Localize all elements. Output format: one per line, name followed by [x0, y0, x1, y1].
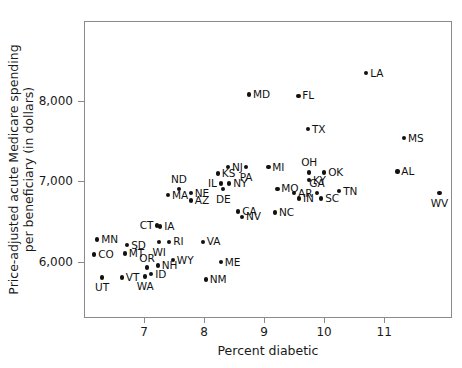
point-label: CO — [98, 249, 113, 260]
point-label: FL — [302, 90, 314, 101]
point-marker — [296, 94, 300, 98]
point-label: TN — [343, 186, 357, 197]
point-label: WY — [177, 255, 194, 266]
point-marker — [292, 191, 296, 195]
point-label: LA — [370, 68, 383, 79]
point-label: IL — [208, 178, 217, 189]
point-marker — [166, 193, 170, 197]
point-marker — [395, 169, 399, 173]
point-marker — [201, 240, 205, 244]
point-label: MI — [272, 162, 284, 173]
x-axis-tick — [204, 318, 205, 323]
point-marker — [92, 252, 96, 256]
x-axis-tick-label: 11 — [364, 325, 404, 339]
point-marker — [266, 165, 270, 169]
point-label: NY — [233, 178, 247, 189]
point-label: VT — [126, 272, 139, 283]
point-marker — [437, 191, 441, 195]
point-label: VA — [207, 236, 221, 247]
point-label: AL — [401, 166, 414, 177]
point-marker — [315, 191, 319, 195]
point-marker — [143, 274, 147, 278]
x-axis-tick — [384, 318, 385, 323]
point-label: IA — [164, 221, 174, 232]
point-marker — [216, 171, 220, 175]
y-axis-tick — [78, 181, 84, 182]
y-axis-tick — [78, 101, 84, 102]
point-label: AZ — [195, 195, 209, 206]
x-axis-title: Percent diabetic — [84, 343, 452, 358]
point-marker — [219, 260, 223, 264]
point-marker — [227, 181, 231, 185]
point-label: ME — [225, 257, 241, 268]
x-axis-tick-label: 7 — [124, 325, 164, 339]
point-marker — [402, 136, 406, 140]
point-label: ND — [171, 174, 187, 185]
point-marker — [157, 240, 161, 244]
point-marker — [100, 275, 104, 279]
point-label: OR — [139, 253, 154, 264]
point-label: WA — [137, 281, 154, 292]
point-label: CT — [140, 220, 154, 231]
point-marker — [275, 187, 279, 191]
point-label: RI — [173, 236, 183, 247]
point-marker — [319, 196, 323, 200]
point-label: NV — [246, 211, 261, 222]
x-axis-tick — [144, 318, 145, 323]
y-axis-title: Price-adjusted acute Medicare spending p… — [6, 21, 40, 318]
point-marker — [364, 71, 368, 75]
point-marker — [273, 210, 277, 214]
point-marker — [123, 251, 127, 255]
point-marker — [145, 265, 149, 269]
point-label: NC — [279, 207, 294, 218]
point-marker — [219, 181, 223, 185]
point-label: IN — [303, 193, 314, 204]
x-axis-tick — [324, 318, 325, 323]
point-label: MD — [253, 89, 270, 100]
point-label: OH — [301, 157, 317, 168]
point-label: MN — [101, 234, 118, 245]
point-marker — [204, 277, 208, 281]
point-marker — [167, 240, 171, 244]
point-label: ID — [155, 269, 166, 280]
x-axis-tick-label: 8 — [184, 325, 224, 339]
point-label: SC — [325, 193, 339, 204]
point-marker — [189, 191, 193, 195]
point-marker — [149, 272, 153, 276]
point-marker — [236, 209, 240, 213]
y-axis-title-line1: Price-adjusted acute Medicare spending — [6, 21, 21, 318]
point-label: GA — [309, 178, 324, 189]
point-label: OK — [328, 167, 343, 178]
y-axis-title-line2: per beneficiary (in dollars) — [21, 21, 36, 318]
point-label: WV — [431, 198, 448, 209]
point-marker — [156, 263, 160, 267]
x-axis-tick — [264, 318, 265, 323]
point-marker — [247, 92, 251, 96]
x-axis-tick-label: 9 — [244, 325, 284, 339]
point-label: UT — [95, 282, 109, 293]
point-marker — [221, 187, 225, 191]
point-marker — [240, 215, 244, 219]
point-marker — [306, 127, 310, 131]
point-marker — [297, 196, 301, 200]
point-marker — [244, 165, 248, 169]
point-label: MA — [172, 190, 188, 201]
point-marker — [307, 170, 311, 174]
data-points-layer: LAMDFLTXMSALWVNJPAMIOHOKKSKYNYILDEMONDTN… — [84, 21, 452, 318]
y-axis-tick — [78, 262, 84, 263]
point-marker — [189, 198, 193, 202]
point-label: MS — [408, 133, 424, 144]
point-label: DE — [216, 194, 231, 205]
point-marker — [120, 275, 124, 279]
point-label: NM — [210, 274, 227, 285]
x-axis-tick-label: 10 — [304, 325, 344, 339]
point-marker — [95, 237, 99, 241]
point-label: TX — [312, 124, 325, 135]
scatter-plot-figure: LAMDFLTXMSALWVNJPAMIOHOKKSKYNYILDEMONDTN… — [0, 0, 462, 368]
